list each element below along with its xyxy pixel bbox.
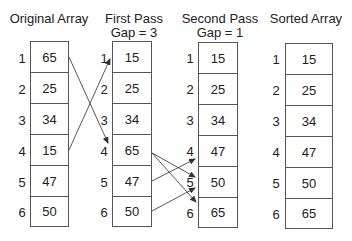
index-label: 6 [98,205,110,220]
array-cell: 47 [198,135,238,167]
index-label: 3 [270,114,282,129]
array-cell: 25 [112,72,152,104]
array-cell: 65 [198,197,238,228]
index-label: 4 [184,144,196,159]
array-cell: 34 [285,105,333,137]
array-cell: 25 [285,74,333,106]
array-cell: 15 [285,43,333,75]
index-label: 6 [184,206,196,221]
array-cell: 65 [112,134,152,166]
array-cell: 50 [30,196,69,227]
index-label: 2 [270,83,282,98]
array-cell: 34 [198,104,238,136]
index-label: 2 [16,82,28,97]
title-line: Second Pass [180,12,260,26]
array-cell: 15 [198,42,238,74]
index-label: 4 [16,144,28,159]
index-label: 6 [270,207,282,222]
index-label: 1 [270,52,282,67]
array-cell: 25 [30,72,69,104]
index-label: 5 [270,176,282,191]
index-label: 3 [184,113,196,128]
array-cell: 34 [30,103,69,135]
index-label: 1 [16,51,28,66]
index-label: 5 [184,175,196,190]
array-cell: 50 [112,196,152,227]
index-label: 3 [98,113,110,128]
index-label: 5 [16,175,28,190]
array-cell: 47 [112,165,152,197]
array-cell: 34 [112,103,152,135]
array-cell: 65 [285,198,333,229]
array-cell: 50 [198,166,238,198]
title-line: First Pass [95,12,173,26]
array-cell: 65 [30,41,69,73]
title-line: Original Array [0,12,98,26]
index-label: 2 [98,82,110,97]
index-label: 1 [98,51,110,66]
array-cell: 25 [198,73,238,105]
column-title-second-pass: Second Pass Gap = 1 [180,12,260,40]
subtitle-line: Gap = 3 [95,26,173,40]
index-label: 3 [16,113,28,128]
index-label: 4 [270,145,282,160]
array-cell: 47 [285,136,333,168]
subtitle-line: Gap = 1 [180,26,260,40]
array-cell: 50 [285,167,333,199]
index-label: 2 [184,82,196,97]
column-title-original: Original Array [0,12,98,26]
title-line: Sorted Array [262,12,350,26]
arrow-icon [69,59,110,150]
array-cell: 47 [30,165,69,197]
index-label: 5 [98,175,110,190]
arrow-icon [69,57,108,143]
array-cell: 15 [30,134,69,166]
array-cell: 15 [112,41,152,73]
index-label: 6 [16,205,28,220]
index-label: 1 [184,51,196,66]
column-title-sorted: Sorted Array [262,12,350,26]
index-label: 4 [98,144,110,159]
column-title-first-pass: First Pass Gap = 3 [95,12,173,40]
